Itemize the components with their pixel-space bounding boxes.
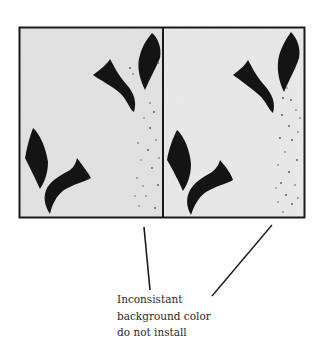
caption-line-2: background color [117,308,211,325]
caption-line-3: do not install [117,324,211,341]
caption: Inconsistant background color do not ins… [117,291,211,341]
left-sample-panel [20,28,163,217]
caption-line-1: Inconsistant [117,291,211,308]
right-sample-panel [163,28,304,217]
leader-line-left [144,227,150,290]
leader-line-right [212,225,272,296]
